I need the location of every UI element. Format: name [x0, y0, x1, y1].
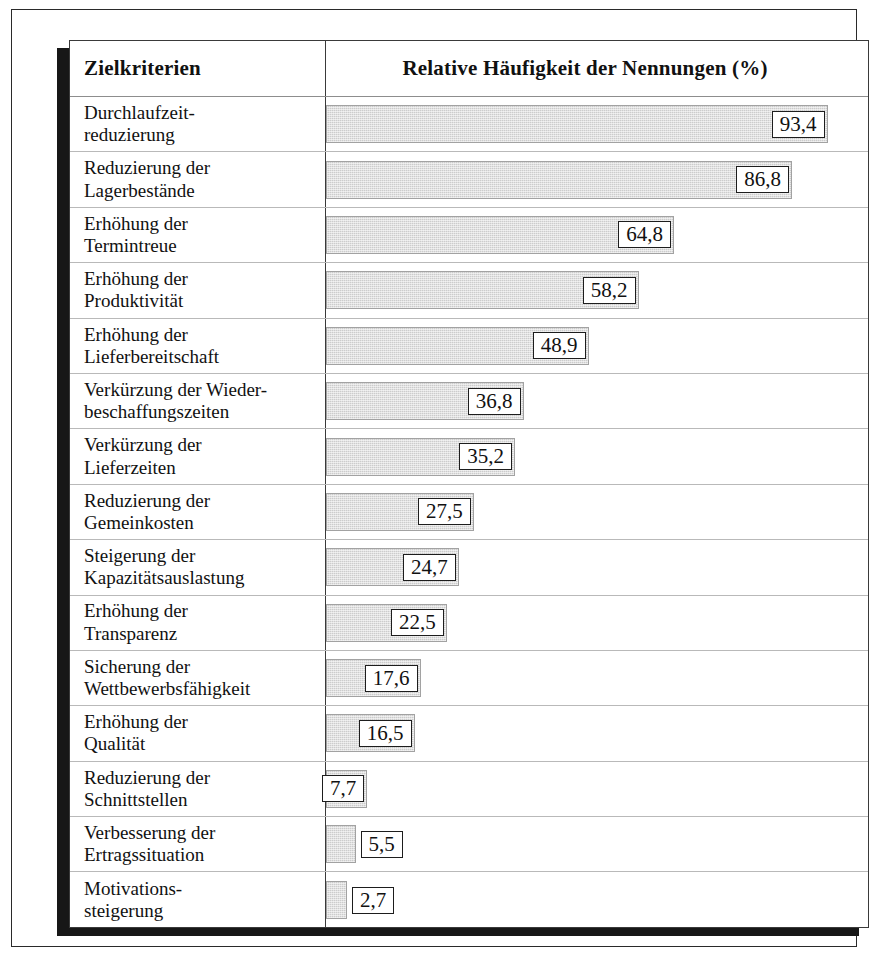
bar-cell: 22,5 [326, 596, 868, 650]
bar-cell: 36,8 [326, 374, 868, 428]
bar: 36,8 [326, 382, 524, 420]
table-row: Durchlaufzeit-reduzierung93,4 [70, 97, 868, 152]
table-row: Verkürzung derLieferzeiten35,2 [70, 429, 868, 484]
criteria-label-line-2: Ertragssituation [84, 844, 321, 866]
bar: 24,7 [326, 548, 459, 586]
table-row: Erhöhung derQualität16,5 [70, 706, 868, 761]
criteria-label-line-2: Termintreue [84, 235, 321, 257]
bar-value-label: 86,8 [736, 166, 789, 193]
criteria-label-line-1: Motivations- [84, 878, 321, 900]
bar-value-label: 36,8 [468, 388, 521, 415]
bar-cell: 17,6 [326, 651, 868, 705]
criteria-label-line-1: Erhöhung der [84, 711, 321, 733]
table-row: Erhöhung derProduktivität58,2 [70, 263, 868, 318]
table-row: Reduzierung derGemeinkosten27,5 [70, 485, 868, 540]
zielkriterien-table: Zielkriterien Relative Häufigkeit der Ne… [69, 40, 869, 928]
bar-value-label: 2,7 [352, 887, 394, 914]
bar-value-label: 27,5 [418, 498, 471, 525]
criteria-label-line-1: Durchlaufzeit- [84, 102, 321, 124]
bar-cell: 16,5 [326, 706, 868, 760]
bar: 86,8 [326, 161, 792, 199]
criteria-label-line-1: Erhöhung der [84, 213, 321, 235]
table-row: Steigerung derKapazitätsauslastung24,7 [70, 540, 868, 595]
criteria-label-line-2: steigerung [84, 900, 321, 922]
figure-outer-frame: Zielkriterien Relative Häufigkeit der Ne… [11, 9, 857, 947]
criteria-label-line-2: Schnittstellen [84, 789, 321, 811]
bar-value-label: 64,8 [618, 221, 671, 248]
header-value-label: Relative Häufigkeit der Nennungen (%) [402, 56, 767, 81]
bar-cell: 24,7 [326, 540, 868, 594]
criteria-label-line-1: Erhöhung der [84, 600, 321, 622]
criteria-label-line-2: Kapazitätsauslastung [84, 567, 321, 589]
table-row: Erhöhung derLieferbereitschaft48,9 [70, 319, 868, 374]
bar-value-label: 17,6 [365, 665, 418, 692]
bar-value-label: 7,7 [322, 775, 364, 802]
bar-value-label: 93,4 [772, 111, 825, 138]
table-row: Erhöhung derTransparenz22,5 [70, 596, 868, 651]
criteria-label-line-1: Sicherung der [84, 656, 321, 678]
criteria-label-line-2: beschaffungszeiten [84, 401, 321, 423]
header-criteria-label: Zielkriterien [84, 56, 201, 81]
criteria-label-line-2: Lieferbereitschaft [84, 346, 321, 368]
bar: 17,6 [326, 659, 421, 697]
bar-cell: 64,8 [326, 208, 868, 262]
bar: 22,5 [326, 604, 447, 642]
table-header-row: Zielkriterien Relative Häufigkeit der Ne… [70, 41, 868, 97]
criteria-label-line-1: Verkürzung der Wieder- [84, 379, 321, 401]
bar-cell: 48,9 [326, 319, 868, 373]
table-row: Reduzierung derSchnittstellen7,7 [70, 762, 868, 817]
criteria-label-line-2: reduzierung [84, 124, 321, 146]
bar-value-label: 24,7 [403, 554, 456, 581]
bar-value-label: 22,5 [391, 609, 444, 636]
criteria-label-line-1: Reduzierung der [84, 490, 321, 512]
bar: 7,7 [326, 770, 367, 808]
criteria-label-line-2: Wettbewerbsfähigkeit [84, 678, 321, 700]
criteria-label-cell: Erhöhung derQualität [70, 706, 326, 760]
criteria-label-cell: Steigerung derKapazitätsauslastung [70, 540, 326, 594]
bar-value-label: 5,5 [361, 831, 403, 858]
criteria-label-line-2: Lieferzeiten [84, 457, 321, 479]
criteria-label-cell: Erhöhung derProduktivität [70, 263, 326, 317]
bar-cell: 86,8 [326, 152, 868, 206]
table-row: Motivations-steigerung2,7 [70, 872, 868, 927]
criteria-label-line-2: Qualität [84, 733, 321, 755]
criteria-label-cell: Durchlaufzeit-reduzierung [70, 97, 326, 151]
table-row: Verkürzung der Wieder-beschaffungszeiten… [70, 374, 868, 429]
criteria-label-line-1: Reduzierung der [84, 157, 321, 179]
criteria-label-line-1: Steigerung der [84, 545, 321, 567]
criteria-label-line-2: Transparenz [84, 623, 321, 645]
criteria-label-cell: Motivations-steigerung [70, 872, 326, 927]
criteria-label-line-1: Verkürzung der [84, 434, 321, 456]
bar-cell: 2,7 [326, 872, 868, 927]
table-row: Erhöhung derTermintreue64,8 [70, 208, 868, 263]
criteria-label-line-2: Lagerbestände [84, 180, 321, 202]
table-row: Verbesserung derErtragssituation5,5 [70, 817, 868, 872]
bar-cell: 58,2 [326, 263, 868, 317]
bar-cell: 35,2 [326, 429, 868, 483]
table-body: Durchlaufzeit-reduzierung93,4Reduzierung… [70, 97, 868, 928]
table-row: Reduzierung derLagerbestände86,8 [70, 152, 868, 207]
criteria-label-cell: Reduzierung derSchnittstellen [70, 762, 326, 816]
criteria-label-cell: Erhöhung derLieferbereitschaft [70, 319, 326, 373]
bar-value-label: 58,2 [583, 277, 636, 304]
bar [326, 825, 356, 863]
criteria-label-cell: Verkürzung der Wieder-beschaffungszeiten [70, 374, 326, 428]
bar-value-label: 16,5 [359, 720, 412, 747]
header-cell-criteria: Zielkriterien [70, 41, 326, 96]
header-cell-value: Relative Häufigkeit der Nennungen (%) [326, 41, 868, 96]
criteria-label-line-1: Erhöhung der [84, 268, 321, 290]
bar-cell: 7,7 [326, 762, 868, 816]
criteria-label-cell: Reduzierung derGemeinkosten [70, 485, 326, 539]
criteria-label-cell: Verbesserung derErtragssituation [70, 817, 326, 871]
criteria-label-cell: Reduzierung derLagerbestände [70, 152, 326, 206]
bar: 16,5 [326, 714, 415, 752]
criteria-label-cell: Erhöhung derTransparenz [70, 596, 326, 650]
bar: 58,2 [326, 271, 639, 309]
criteria-label-cell: Sicherung derWettbewerbsfähigkeit [70, 651, 326, 705]
criteria-label-line-2: Produktivität [84, 290, 321, 312]
criteria-label-line-1: Verbesserung der [84, 822, 321, 844]
bar: 48,9 [326, 327, 589, 365]
bar: 27,5 [326, 493, 474, 531]
bar-cell: 27,5 [326, 485, 868, 539]
bar: 64,8 [326, 216, 674, 254]
